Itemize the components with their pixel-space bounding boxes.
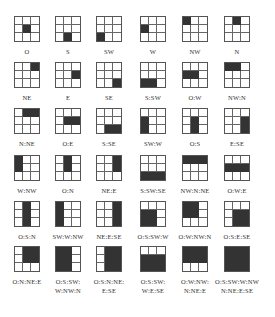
pattern-item: N (215, 16, 259, 56)
grid-cell-sw (15, 263, 23, 271)
grid-cell-sw (183, 172, 191, 180)
grid-cell-n (64, 17, 72, 25)
grid-cell-n (191, 247, 199, 255)
grid-cell-s (149, 79, 157, 87)
pattern-grid (140, 62, 166, 88)
grid-cell-o (23, 117, 31, 125)
grid-cell-sw (183, 218, 191, 226)
grid-cell-nw (225, 17, 233, 25)
grid-cell-s (233, 263, 241, 271)
pattern-label: O:S:SW: W:NW:N (46, 277, 90, 295)
pattern-label: NW:N:NE (173, 186, 217, 195)
grid-cell-s (191, 33, 199, 41)
grid-cell-o (191, 117, 199, 125)
pattern-label: S:SW (131, 93, 175, 102)
grid-cell-ne (113, 156, 121, 164)
grid-cell-ne (72, 156, 80, 164)
grid-cell-w (97, 164, 105, 172)
pattern-label: O:S:SW:W (131, 232, 175, 241)
grid-cell-n (105, 156, 113, 164)
grid-cell-sw (183, 33, 191, 41)
pattern-item: NW:N (215, 62, 259, 102)
grid-cell-w (15, 255, 23, 263)
grid-cell-sw (141, 263, 149, 271)
grid-cell-se (241, 172, 249, 180)
grid-cell-n (105, 17, 113, 25)
grid-cell-nw (97, 247, 105, 255)
grid-cell-sw (15, 172, 23, 180)
grid-cell-o (149, 25, 157, 33)
grid-cell-e (241, 164, 249, 172)
grid-cell-ne (113, 247, 121, 255)
pattern-item: O:W:NW:N (173, 201, 217, 241)
grid-cell-ne (157, 63, 165, 71)
grid-cell-n (191, 156, 199, 164)
grid-cell-s (233, 33, 241, 41)
grid-cell-w (141, 25, 149, 33)
grid-cell-s (23, 79, 31, 87)
grid-cell-ne (157, 247, 165, 255)
pattern-label: W:NW (5, 186, 49, 195)
grid-cell-n (233, 109, 241, 117)
grid-cell-n (23, 156, 31, 164)
grid-cell-ne (157, 202, 165, 210)
grid-cell-sw (141, 172, 149, 180)
grid-cell-nw (183, 247, 191, 255)
grid-cell-w (225, 255, 233, 263)
grid-cell-n (23, 202, 31, 210)
grid-cell-e (31, 25, 39, 33)
grid-cell-n (233, 202, 241, 210)
pattern-item: O:E (46, 108, 90, 148)
pattern-item: O:S:SW: W:NW:N (46, 246, 90, 295)
pattern-label: SE (87, 93, 131, 102)
grid-cell-s (149, 218, 157, 226)
grid-cell-o (149, 210, 157, 218)
grid-cell-e (241, 25, 249, 33)
grid-cell-e (241, 255, 249, 263)
grid-cell-se (72, 172, 80, 180)
grid-cell-nw (225, 156, 233, 164)
grid-cell-se (31, 263, 39, 271)
grid-cell-n (105, 247, 113, 255)
pattern-grid (182, 62, 208, 88)
grid-cell-sw (183, 263, 191, 271)
grid-cell-n (233, 247, 241, 255)
grid-cell-se (241, 125, 249, 133)
pattern-grid (96, 108, 122, 134)
grid-cell-s (149, 33, 157, 41)
grid-cell-w (225, 71, 233, 79)
grid-cell-e (31, 117, 39, 125)
pattern-label: O:W:NW: N:NE:E (173, 277, 217, 295)
grid-cell-s (105, 33, 113, 41)
pattern-grid (14, 246, 40, 272)
grid-cell-w (141, 117, 149, 125)
grid-cell-s (233, 218, 241, 226)
grid-cell-e (199, 210, 207, 218)
grid-cell-nw (15, 202, 23, 210)
grid-cell-se (113, 263, 121, 271)
grid-cell-s (105, 218, 113, 226)
grid-cell-w (141, 210, 149, 218)
grid-cell-n (23, 247, 31, 255)
grid-cell-e (157, 117, 165, 125)
grid-cell-e (113, 25, 121, 33)
pattern-grid (224, 155, 250, 181)
pattern-item: O:S:SW:W:NW N:NE:E:SE (215, 246, 259, 295)
grid-cell-s (64, 79, 72, 87)
grid-cell-s (105, 79, 113, 87)
pattern-label: S (46, 47, 90, 56)
pattern-grid (96, 16, 122, 42)
grid-cell-n (233, 17, 241, 25)
grid-cell-s (64, 125, 72, 133)
grid-cell-sw (225, 125, 233, 133)
grid-cell-ne (241, 247, 249, 255)
grid-cell-w (225, 25, 233, 33)
grid-cell-n (105, 202, 113, 210)
grid-cell-sw (141, 79, 149, 87)
pattern-item: SW:W:NW (46, 201, 90, 241)
pattern-label: NE:E (87, 186, 131, 195)
grid-cell-sw (97, 218, 105, 226)
grid-cell-n (149, 247, 157, 255)
grid-cell-se (72, 218, 80, 226)
grid-cell-e (72, 164, 80, 172)
